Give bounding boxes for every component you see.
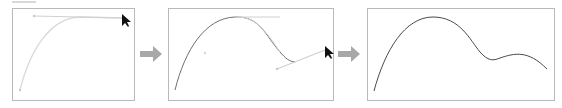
handle-point [33,15,35,17]
handle-point [204,52,206,54]
curve-editing-ghost [235,17,280,52]
step-3-graphics [374,17,547,91]
curve-final [374,17,547,91]
mouse-pointer-icon [122,14,131,27]
anchor-point [19,89,21,91]
right-arrow-icon [338,46,360,62]
step-1-graphics [19,14,131,91]
right-arrow-icon [140,46,162,62]
lower-handle-line [277,50,325,69]
curve-initial [20,17,124,90]
handle-point [276,68,278,70]
diagram-graphics [0,0,562,108]
bezier-editing-diagram [0,0,562,108]
top-handle-line [34,16,124,18]
step-2-graphics [175,17,334,90]
mouse-pointer-icon [325,46,334,59]
curve-editing [175,17,295,90]
